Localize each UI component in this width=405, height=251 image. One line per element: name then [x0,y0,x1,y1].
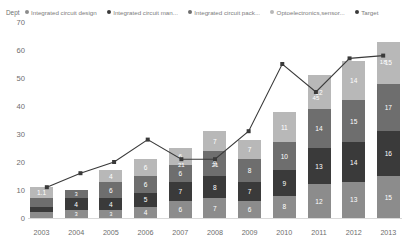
stacked-bar[interactable]: 343 [65,22,88,218]
stacked-bar[interactable]: 12141312 [308,22,331,218]
stacked-bar[interactable]: 6654 [134,22,157,218]
bar-segment[interactable]: 7 [203,198,226,218]
x-axis-tick: 2012 [342,228,365,242]
y-axis-tick: 30 [17,130,25,139]
stacked-bar[interactable]: 15171615 [377,22,400,218]
y-axis-tick: 60 [17,46,25,55]
x-axis-tick: 2007 [169,228,192,242]
x-axis-tick: 2011 [308,228,331,242]
bar-segment[interactable]: 6 [134,159,157,176]
bar-segment[interactable]: 8 [273,196,296,218]
y-axis: 010203040506070 [0,22,28,225]
bar-segment[interactable]: 6 [134,176,157,193]
bar-segment[interactable]: 14 [342,61,365,100]
bar-segment[interactable]: 8 [203,176,226,198]
chart-legend: Dept Integrated circuit design Integrate… [0,6,405,18]
stacked-bar[interactable]: 6676 [169,22,192,218]
bar-segment[interactable]: 3 [99,210,122,218]
bar-segment[interactable]: 16 [377,131,400,176]
bar-segment[interactable]: 7 [238,182,261,202]
legend-item-label: Integrated circuit pack... [194,9,260,16]
target-value-label: 21 [212,162,219,168]
y-axis-tick: 0 [21,214,25,223]
bar-segment[interactable]: 9 [273,170,296,195]
stacked-bars-group: 1.13434643665466767987787611109812141312… [30,22,400,218]
x-axis-tick: 2009 [238,228,261,242]
x-axis-tick: 2004 [65,228,88,242]
legend-item-label: Integrated circuit design [31,9,97,16]
x-axis-tick: 2013 [377,228,400,242]
bar-segment[interactable]: 4 [65,198,88,209]
bar-segment[interactable]: 15 [377,176,400,218]
legend-dot-icon [188,10,192,14]
x-axis-tick: 2003 [30,228,53,242]
target-value-label: 45 [313,95,320,101]
y-axis-tick: 10 [17,186,25,195]
bar-segment[interactable]: 12 [308,184,331,218]
legend-item-integrated-circuit-pack[interactable]: Integrated circuit pack... [188,9,260,16]
bar-segment[interactable]: 14 [342,142,365,181]
bar-segment[interactable] [30,198,53,206]
bar-segment[interactable]: 4 [99,198,122,209]
target-value-label: 18 [380,59,387,65]
legend-item-integrated-circuit-design[interactable]: Integrated circuit design [25,9,97,16]
bar-segment[interactable]: 15 [342,100,365,142]
bar-segment[interactable]: 4 [99,170,122,181]
bar-segment[interactable]: 8 [238,159,261,181]
stacked-bar[interactable]: 7876 [238,22,261,218]
legend-dot-icon [270,10,274,14]
y-axis-tick: 20 [17,158,25,167]
stacked-bar[interactable]: 7987 [203,22,226,218]
y-axis-tick: 40 [17,102,25,111]
x-axis: 2003200420052006200720082009201020112012… [30,228,400,242]
bar-segment[interactable]: 6 [99,182,122,199]
x-axis-tick: 2005 [99,228,122,242]
legend-item-integrated-circuit-man[interactable]: Integrated circuit man... [107,9,178,16]
bar-segment[interactable]: 14 [308,109,331,148]
bar-segment[interactable]: 7 [238,140,261,160]
legend-item-target[interactable]: Target [355,9,379,16]
bar-segment[interactable]: 7 [169,182,192,202]
bar-segment[interactable]: 5 [134,193,157,207]
bar-segment[interactable]: 6 [238,201,261,218]
legend-item-label: Optoelectronics,sensor... [277,9,345,16]
stacked-bar[interactable]: 14151413 [342,22,365,218]
bar-segment[interactable]: 13 [308,148,331,184]
bar-segment[interactable]: 3 [65,190,88,198]
x-axis-tick: 2010 [273,228,296,242]
legend-dept-label: Dept [6,9,20,16]
chart-plot-area: 1.13434643665466767987787611109812141312… [30,22,400,225]
bar-segment[interactable]: 7 [203,131,226,151]
target-value-label: 21 [178,162,185,168]
y-axis-tick: 70 [17,18,25,27]
bar-segment[interactable]: 6 [169,201,192,218]
bar-segment[interactable]: 3 [65,210,88,218]
bar-segment[interactable]: 10 [273,142,296,170]
legend-item-label: Target [361,9,378,16]
stacked-bar[interactable]: 4643 [99,22,122,218]
stacked-bar[interactable]: 111098 [273,22,296,218]
x-axis-tick: 2006 [134,228,157,242]
legend-dot-icon [355,10,359,14]
bar-segment[interactable]: 11 [273,112,296,143]
legend-item-optoelectronics-sensor[interactable]: Optoelectronics,sensor... [270,9,345,16]
legend-dot-icon [25,10,29,14]
legend-item-label: Integrated circuit man... [113,9,178,16]
legend-dot-icon [107,10,111,14]
bar-segment[interactable]: 13 [342,182,365,218]
x-axis-tick: 2008 [203,228,226,242]
bar-segment[interactable]: 1.1 [30,187,53,198]
bar-segment[interactable]: 12 [308,75,331,109]
bar-segment[interactable]: 17 [377,84,400,132]
bar-segment[interactable]: 4 [134,207,157,218]
bar-segment[interactable] [30,212,53,218]
y-axis-tick: 50 [17,74,25,83]
stacked-bar[interactable]: 1.1 [30,22,53,218]
